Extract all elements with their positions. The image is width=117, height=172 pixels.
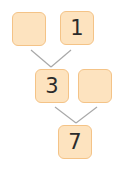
- link-top-right-to-middle-left: [51, 50, 71, 67]
- number-pyramid-diagram: 1 3 7: [0, 0, 117, 172]
- node-middle-left[interactable]: 3: [35, 69, 69, 103]
- link-middle-left-to-bottom: [55, 107, 76, 123]
- node-bottom[interactable]: 7: [58, 125, 92, 159]
- node-top-left[interactable]: [12, 12, 46, 46]
- node-middle-right[interactable]: [78, 69, 112, 103]
- link-top-left-to-middle-left: [31, 50, 51, 67]
- node-value: 7: [68, 132, 81, 153]
- node-top-right[interactable]: 1: [60, 11, 94, 45]
- node-value: 3: [45, 76, 58, 97]
- node-value: 1: [70, 18, 83, 39]
- link-middle-right-to-bottom: [76, 107, 97, 123]
